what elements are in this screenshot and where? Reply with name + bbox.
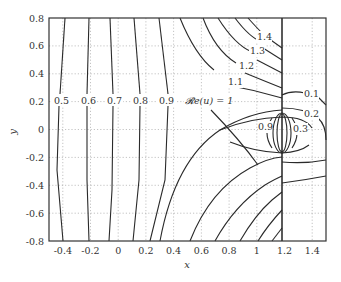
svg-text:0.8: 0.8 — [222, 245, 237, 256]
x-axis-label: x — [184, 259, 190, 270]
svg-text:1.4: 1.4 — [305, 245, 320, 256]
svg-text:-0.2: -0.2 — [26, 152, 44, 163]
svg-text:-0.2: -0.2 — [81, 245, 99, 256]
svg-text:-0.4: -0.4 — [26, 180, 44, 191]
svg-text:1.2: 1.2 — [239, 60, 254, 71]
svg-text:𝓡e(u) = 1: 𝓡e(u) = 1 — [185, 95, 233, 106]
y-axis-label: y — [7, 129, 18, 136]
grid — [49, 18, 326, 241]
svg-text:0.4: 0.4 — [29, 68, 44, 79]
svg-text:0.3: 0.3 — [293, 123, 308, 134]
svg-text:0.1: 0.1 — [304, 88, 319, 99]
svg-text:0: 0 — [115, 245, 121, 256]
svg-text:0.8: 0.8 — [29, 13, 44, 24]
contours-right — [282, 92, 326, 183]
svg-text:0.2: 0.2 — [304, 108, 319, 119]
contours-left — [57, 18, 168, 241]
y-axis-ticks: 0.8 0.6 0.4 0.2 0 -0.2 -0.4 -0.6 -0.8 — [26, 13, 44, 247]
svg-text:0: 0 — [38, 124, 44, 135]
svg-text:0.9: 0.9 — [159, 95, 174, 106]
contour-plot: 0.5 0.6 0.7 0.8 0.9 𝓡e(u) = 1 1.1 1.2 1.… — [0, 0, 341, 282]
svg-text:-0.8: -0.8 — [26, 236, 44, 247]
svg-text:1.4: 1.4 — [257, 31, 272, 42]
svg-text:0.9: 0.9 — [258, 121, 273, 132]
x-axis-ticks: -0.4 -0.2 0 0.2 0.4 0.6 0.8 1 1.2 1.4 — [54, 245, 320, 256]
svg-text:0.5: 0.5 — [54, 95, 69, 106]
svg-text:1: 1 — [254, 245, 260, 256]
svg-text:0.6: 0.6 — [81, 95, 96, 106]
svg-text:0.6: 0.6 — [29, 40, 44, 51]
svg-text:-0.6: -0.6 — [26, 208, 44, 219]
svg-text:1.1: 1.1 — [228, 76, 243, 87]
svg-text:0.8: 0.8 — [133, 95, 148, 106]
svg-text:-0.4: -0.4 — [54, 245, 72, 256]
svg-text:0.6: 0.6 — [194, 245, 209, 256]
svg-text:1.2: 1.2 — [277, 245, 292, 256]
svg-text:0.7: 0.7 — [107, 95, 122, 106]
svg-text:0.2: 0.2 — [29, 96, 44, 107]
svg-text:0.4: 0.4 — [166, 245, 181, 256]
svg-text:0.2: 0.2 — [138, 245, 153, 256]
svg-text:1.3: 1.3 — [250, 45, 265, 56]
